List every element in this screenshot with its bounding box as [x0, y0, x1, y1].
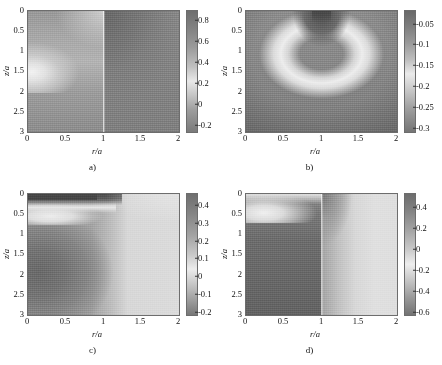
cb-tick-b-3: -0.2	[416, 82, 429, 91]
x-tick-d-0: 0	[235, 317, 255, 326]
x-tick-b-0: 0	[235, 134, 255, 143]
panel-caption-d: d)	[199, 345, 420, 355]
x-tick-a-4: 2	[168, 134, 188, 143]
cb-tick-c-1: 0.3	[198, 219, 209, 228]
y-tick-c-4: 2	[2, 270, 24, 279]
y-tick-d-0: 0	[220, 189, 242, 198]
heatmap-a	[28, 11, 179, 132]
cb-tick-a-2: 0.4	[198, 58, 209, 67]
colorbar-d	[404, 193, 416, 316]
y-axis-title-a: z/a	[1, 56, 11, 86]
separatrix-line-a	[103, 11, 104, 132]
cb-tick-d-2: 0	[416, 245, 420, 254]
x-tick-a-2: 1	[93, 134, 113, 143]
cb-tick-c-5: -0.1	[198, 290, 211, 299]
cb-tick-b-2: -0.15	[416, 61, 434, 70]
x-tick-c-2: 1	[93, 317, 113, 326]
cb-tick-d-5: -0.6	[416, 308, 429, 317]
plot-area-d	[245, 193, 398, 316]
x-tick-c-0: 0	[17, 317, 37, 326]
cb-tick-a-5: -0.2	[198, 121, 211, 130]
cb-tick-c-2: 0.2	[198, 237, 209, 246]
x-tick-a-3: 1.5	[130, 134, 150, 143]
panel-caption-a: a)	[0, 162, 203, 172]
cb-tick-b-0: -0.05	[416, 20, 434, 29]
panel-b: 0 0.5 1 1.5 2 2.5 3 0 0.5 1 1.5 2 z/a r/…	[221, 0, 442, 183]
colorbar-b	[404, 10, 416, 133]
y-tick-b-2: 1	[220, 46, 242, 55]
cb-tick-c-4: 0	[198, 272, 202, 281]
cb-tick-a-3: 0.2	[198, 79, 209, 88]
cb-tick-a-0: 0.8	[198, 16, 209, 25]
cb-tick-b-5: -0.3	[416, 124, 429, 133]
y-tick-c-5: 2.5	[2, 290, 24, 299]
x-tick-b-4: 2	[386, 134, 406, 143]
x-tick-b-2: 1	[311, 134, 331, 143]
y-tick-a-5: 2.5	[2, 107, 24, 116]
x-tick-b-3: 1.5	[348, 134, 368, 143]
y-tick-a-4: 2	[2, 87, 24, 96]
x-tick-c-4: 2	[168, 317, 188, 326]
x-tick-d-1: 0.5	[273, 317, 293, 326]
cb-tick-c-3: 0.1	[198, 254, 209, 263]
cb-tick-b-4: -0.25	[416, 103, 434, 112]
y-tick-d-5: 2.5	[220, 290, 242, 299]
y-tick-d-2: 1	[220, 229, 242, 238]
heatmap-d	[246, 194, 397, 315]
x-tick-d-3: 1.5	[348, 317, 368, 326]
y-tick-b-1: 0.5	[220, 26, 242, 35]
y-tick-b-4: 2	[220, 87, 242, 96]
y-tick-c-0: 0	[2, 189, 24, 198]
y-tick-d-1: 0.5	[220, 209, 242, 218]
y-tick-b-5: 2.5	[220, 107, 242, 116]
x-tick-c-3: 1.5	[130, 317, 150, 326]
cb-tick-b-1: -0.1	[416, 40, 429, 49]
cb-tick-d-4: -0.4	[416, 287, 429, 296]
x-tick-a-0: 0	[17, 134, 37, 143]
cb-tick-c-6: -0.2	[198, 308, 211, 317]
separatrix-line-d	[321, 194, 322, 315]
x-tick-d-4: 2	[386, 317, 406, 326]
colorbar-a	[186, 10, 198, 133]
cb-tick-d-0: 0.4	[416, 203, 427, 212]
cb-tick-d-3: -0.2	[416, 266, 429, 275]
y-tick-a-0: 0	[2, 6, 24, 15]
x-tick-d-2: 1	[311, 317, 331, 326]
plot-area-a	[27, 10, 180, 133]
y-tick-b-0: 0	[220, 6, 242, 15]
y-tick-d-4: 2	[220, 270, 242, 279]
colorbar-c	[186, 193, 198, 316]
panel-d: 0 0.5 1 1.5 2 2.5 3 0 0.5 1 1.5 2 z/a r/…	[221, 183, 442, 365]
x-axis-title-a: r/a	[77, 146, 117, 156]
y-tick-a-1: 0.5	[2, 26, 24, 35]
cb-tick-a-4: 0	[198, 100, 202, 109]
y-axis-title-b: z/a	[219, 56, 229, 86]
y-axis-title-d: z/a	[219, 239, 229, 269]
plot-area-b	[245, 10, 398, 133]
y-tick-c-2: 1	[2, 229, 24, 238]
plot-area-c	[27, 193, 180, 316]
panel-c: 0 0.5 1 1.5 2 2.5 3 0 0.5 1 1.5 2 z/a r/…	[0, 183, 221, 365]
panel-caption-c: c)	[0, 345, 203, 355]
cb-tick-d-1: 0.2	[416, 224, 427, 233]
cb-tick-c-0: 0.4	[198, 201, 209, 210]
x-tick-b-1: 0.5	[273, 134, 293, 143]
y-axis-title-c: z/a	[1, 239, 11, 269]
heatmap-b	[246, 11, 397, 132]
x-axis-title-c: r/a	[77, 329, 117, 339]
cb-tick-a-1: 0.6	[198, 37, 209, 46]
figure-grid: 0 0.5 1 1.5 2 2.5 3 0 0.5 1 1.5 2 z/a r/…	[0, 0, 442, 365]
panel-a: 0 0.5 1 1.5 2 2.5 3 0 0.5 1 1.5 2 z/a r/…	[0, 0, 221, 183]
x-axis-title-b: r/a	[295, 146, 335, 156]
y-tick-c-1: 0.5	[2, 209, 24, 218]
panel-caption-b: b)	[199, 162, 420, 172]
x-tick-c-1: 0.5	[55, 317, 75, 326]
heatmap-c	[28, 194, 179, 315]
x-axis-title-d: r/a	[295, 329, 335, 339]
y-tick-a-2: 1	[2, 46, 24, 55]
x-tick-a-1: 0.5	[55, 134, 75, 143]
